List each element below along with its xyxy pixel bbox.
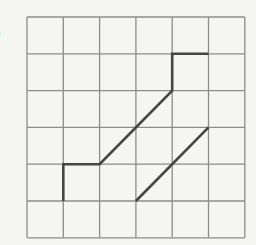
grid-diagram: [0, 0, 256, 245]
